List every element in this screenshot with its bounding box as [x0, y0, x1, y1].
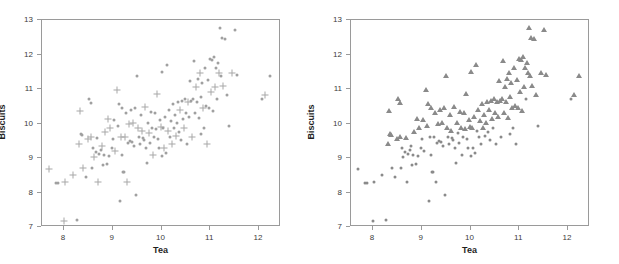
- data-point: [142, 139, 145, 142]
- data-point: [397, 134, 403, 139]
- data-point: [384, 219, 387, 222]
- data-point: [107, 125, 114, 132]
- data-point: [507, 94, 513, 99]
- data-point: [184, 112, 187, 115]
- data-point: [233, 29, 236, 32]
- data-point: [169, 141, 176, 148]
- data-point: [117, 103, 120, 106]
- x-axis-tick: [567, 226, 568, 230]
- data-point: [385, 141, 391, 146]
- data-point: [212, 110, 215, 113]
- data-point: [60, 217, 67, 224]
- data-point: [443, 73, 449, 78]
- data-point: [380, 174, 383, 177]
- left-points-layer: [42, 20, 279, 225]
- data-point: [87, 134, 94, 141]
- data-point: [187, 116, 190, 119]
- data-point: [219, 26, 222, 29]
- data-point: [208, 106, 211, 109]
- data-point: [91, 154, 98, 161]
- x-axis-tick-label: 9: [418, 233, 422, 242]
- data-point: [506, 70, 512, 75]
- data-point: [526, 25, 532, 30]
- data-point: [180, 139, 183, 142]
- data-point: [56, 181, 59, 184]
- data-point: [569, 97, 572, 100]
- data-point: [177, 106, 184, 113]
- data-point: [130, 109, 133, 112]
- data-point: [195, 101, 198, 104]
- data-point: [188, 79, 191, 82]
- data-point: [113, 87, 120, 94]
- y-axis-tick: [37, 157, 41, 158]
- right-points-layer: [351, 20, 588, 225]
- data-point: [75, 141, 82, 148]
- data-point: [192, 59, 195, 62]
- data-point: [419, 146, 422, 149]
- data-point: [430, 154, 433, 157]
- data-point: [408, 148, 411, 151]
- data-point: [90, 101, 93, 104]
- data-point: [118, 199, 121, 202]
- data-point: [165, 128, 172, 135]
- x-axis-tick: [518, 226, 519, 230]
- data-point: [442, 144, 445, 147]
- data-point: [176, 121, 179, 124]
- data-point: [141, 103, 148, 110]
- y-axis-tick-label: 12: [326, 49, 342, 58]
- x-axis-tick-label: 11: [514, 233, 522, 242]
- x-axis-tick-label: 11: [205, 233, 213, 242]
- data-point: [124, 179, 131, 186]
- data-point: [181, 118, 184, 121]
- data-point: [104, 115, 111, 122]
- data-point: [454, 120, 460, 125]
- data-point: [138, 135, 141, 138]
- data-point: [46, 166, 53, 173]
- y-axis-tick: [346, 54, 350, 55]
- data-point: [116, 125, 119, 128]
- data-point: [164, 115, 167, 118]
- data-point: [204, 141, 211, 148]
- y-axis-tick: [37, 192, 41, 193]
- data-point: [416, 154, 419, 157]
- data-point: [261, 91, 268, 98]
- data-point: [466, 146, 469, 149]
- data-point: [502, 84, 508, 89]
- data-point: [519, 108, 525, 113]
- data-point: [525, 98, 528, 101]
- data-point: [145, 130, 152, 137]
- data-point: [219, 82, 226, 89]
- data-point: [207, 79, 210, 82]
- y-axis-tick: [346, 88, 350, 89]
- y-axis-tick-label: 10: [326, 118, 342, 127]
- data-point: [423, 150, 426, 153]
- data-point: [217, 62, 220, 65]
- data-point: [225, 93, 228, 96]
- data-point: [531, 36, 537, 41]
- data-point: [174, 114, 177, 117]
- data-point: [435, 181, 438, 184]
- data-point: [536, 125, 539, 128]
- data-point: [448, 143, 451, 146]
- x-axis-tick-label: 8: [370, 233, 374, 242]
- y-axis-tick-label: 13: [17, 15, 33, 24]
- data-point: [461, 136, 464, 139]
- data-point: [80, 164, 87, 171]
- data-point: [512, 126, 515, 129]
- data-point: [423, 87, 429, 92]
- data-point: [172, 103, 175, 106]
- data-point: [473, 62, 479, 67]
- data-point: [357, 168, 360, 171]
- data-point: [107, 154, 110, 157]
- data-point: [469, 125, 475, 130]
- data-point: [469, 154, 472, 157]
- data-point: [400, 166, 403, 169]
- data-point: [161, 71, 164, 74]
- data-point: [476, 130, 479, 133]
- data-point: [157, 146, 160, 149]
- data-point: [197, 116, 200, 119]
- data-point: [424, 123, 430, 128]
- data-point: [571, 92, 577, 97]
- data-point: [268, 74, 271, 77]
- data-point: [484, 134, 487, 137]
